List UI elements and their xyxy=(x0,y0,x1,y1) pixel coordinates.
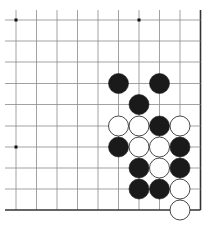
black-stone xyxy=(150,74,170,94)
white-stone xyxy=(150,137,170,157)
black-stone xyxy=(129,95,149,115)
star-point-icon xyxy=(15,19,18,22)
black-stone xyxy=(129,158,149,178)
grid-lines xyxy=(5,10,201,210)
black-stone xyxy=(129,179,149,199)
stones xyxy=(109,74,191,221)
white-stone xyxy=(170,200,190,220)
star-point-icon xyxy=(138,19,141,22)
white-stone xyxy=(129,116,149,136)
white-stone xyxy=(129,137,149,157)
black-stone xyxy=(170,137,190,157)
black-stone xyxy=(109,74,129,94)
white-stone xyxy=(109,116,129,136)
star-point-icon xyxy=(15,146,18,149)
black-stone xyxy=(170,158,190,178)
white-stone xyxy=(170,116,190,136)
white-stone xyxy=(170,179,190,199)
black-stone xyxy=(150,179,170,199)
black-stone xyxy=(150,116,170,136)
go-board xyxy=(0,0,206,227)
black-stone xyxy=(109,137,129,157)
white-stone xyxy=(150,158,170,178)
